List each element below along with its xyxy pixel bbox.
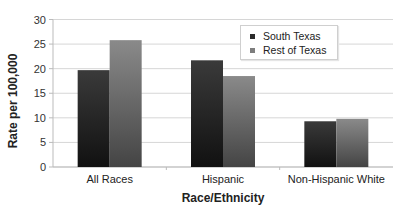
legend-label: Rest of Texas: [263, 44, 326, 56]
bar-south-texas: [304, 121, 336, 167]
plot-area: 051015202530All RacesHispanicNon-Hispani…: [0, 0, 407, 216]
bar-south-texas: [191, 60, 223, 167]
x-axis-label: Race/Ethnicity: [53, 191, 393, 205]
y-tick-label: 25: [34, 38, 46, 50]
legend-swatch-icon: [250, 48, 255, 53]
y-axis-label: Rate per 100,000: [6, 94, 20, 108]
y-tick-label: 20: [34, 63, 46, 75]
y-tick-label: 0: [40, 161, 46, 173]
bar-chart: 051015202530All RacesHispanicNon-Hispani…: [0, 0, 407, 216]
x-tick-label: All Races: [86, 173, 133, 185]
bar-rest-of-texas: [110, 40, 142, 167]
y-tick-label: 15: [34, 87, 46, 99]
legend-item-rest-of-texas: Rest of Texas: [250, 44, 326, 56]
y-tick-label: 30: [34, 14, 46, 26]
legend: South Texas Rest of Texas: [240, 25, 338, 60]
x-tick-label: Non-Hispanic White: [288, 173, 385, 185]
x-tick-label: Hispanic: [202, 173, 245, 185]
y-tick-label: 10: [34, 112, 46, 124]
bar-south-texas: [78, 70, 110, 167]
bar-rest-of-texas: [336, 119, 368, 167]
legend-item-south-texas: South Texas: [250, 30, 321, 42]
y-axis-label-text: Rate per 100,000: [6, 54, 20, 149]
legend-swatch-icon: [250, 34, 255, 39]
legend-label: South Texas: [263, 30, 321, 42]
bar-rest-of-texas: [223, 76, 255, 167]
y-tick-label: 5: [40, 136, 46, 148]
